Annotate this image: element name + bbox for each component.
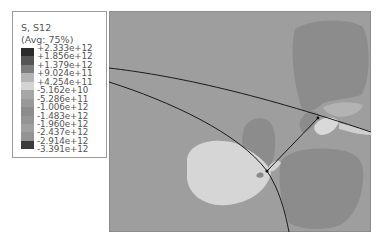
legend-swatch xyxy=(21,90,34,98)
triple-junction-lower xyxy=(265,169,268,172)
legend-swatch xyxy=(21,107,34,115)
stress-contour-plot xyxy=(109,11,371,232)
legend-labels: +2.333e+12+1.856e+12+1.379e+12+9.024e+11… xyxy=(37,44,93,154)
legend-swatch xyxy=(21,65,34,73)
legend-title: S, S12 xyxy=(21,22,51,33)
triple-junction-upper xyxy=(317,117,320,120)
legend-swatch xyxy=(21,132,34,140)
legend-swatch xyxy=(21,116,34,124)
legend-swatch xyxy=(21,48,34,56)
legend-swatch xyxy=(21,73,34,81)
legend-color-bar xyxy=(21,48,34,149)
legend-level-label: -3.391e+12 xyxy=(37,145,93,153)
legend-swatch xyxy=(21,124,34,132)
legend-swatch xyxy=(21,141,34,149)
legend-swatch xyxy=(21,82,34,90)
contour-legend: S, S12 (Avg: 75%) +2.333e+12+1.856e+12+1… xyxy=(12,11,107,158)
legend-swatch xyxy=(21,56,34,64)
legend-swatch xyxy=(21,99,34,107)
